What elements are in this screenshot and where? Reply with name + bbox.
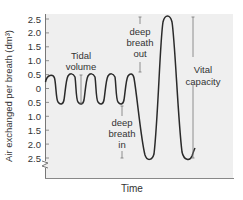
annotation-out-line3: out <box>133 48 147 59</box>
annotation-vital-line2: capacity <box>186 76 221 87</box>
annotation-vital-line1: Vital <box>194 64 212 75</box>
y-tick-label: 1.0 <box>28 55 41 66</box>
y-axis-label: Air exchanged per breath (dm³) <box>3 30 14 162</box>
annotation-out-line2: breath <box>127 37 154 48</box>
y-tick-label: 2.0 <box>28 139 41 150</box>
annotation-in-line1: deep <box>111 117 132 128</box>
y-tick-label: 0 <box>36 83 41 94</box>
annotation-tidal-line1: Tidal <box>71 50 91 61</box>
y-tick-label: 1.0 <box>28 111 41 122</box>
y-tick-label: 0.5 <box>28 97 41 108</box>
y-tick-label: 2.5 <box>28 153 41 164</box>
x-axis-label: Time <box>121 183 143 194</box>
annotation-tidal-line2: volume <box>66 61 97 72</box>
y-tick-label: 1.5 <box>28 41 41 52</box>
annotation-out-line1: deep <box>129 26 150 37</box>
y-tick-label: 2.5 <box>28 14 41 25</box>
y-tick-label: 1.5 <box>28 125 41 136</box>
y-tick-label: 2.0 <box>28 27 41 38</box>
spirometer-chart: Air exchanged per breath (dm³) Time 2.52… <box>0 0 243 200</box>
annotation-in-line2: breath <box>109 128 136 139</box>
y-tick-label: 0.5 <box>28 69 41 80</box>
annotation-in-line3: in <box>118 139 125 150</box>
